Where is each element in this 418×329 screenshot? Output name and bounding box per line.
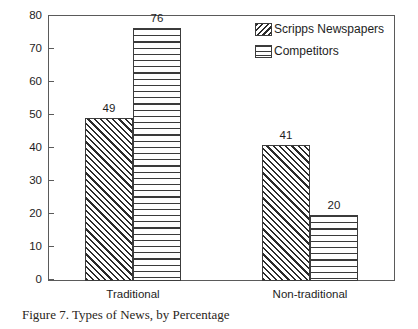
legend-item-competitors: Competitors: [255, 42, 384, 61]
legend-swatch-diagonal-hatch-icon: [255, 23, 272, 36]
legend-label-competitors: Competitors: [274, 45, 339, 58]
y-tick-label-80: 80: [6, 10, 42, 22]
bar-traditional-competitors: [133, 28, 181, 281]
legend: Scripps Newspapers Competitors: [255, 20, 384, 64]
y-tick-label-50: 50: [6, 109, 42, 121]
x-category-label-traditional: Traditional: [83, 288, 183, 300]
figure-caption: Figure 7. Types of News, by Percentage: [22, 307, 230, 322]
y-tick-mark-30: [48, 180, 54, 181]
y-tick-mark-70: [48, 48, 54, 49]
y-tick-label-40: 40: [6, 142, 42, 154]
legend-item-scripps-newspapers: Scripps Newspapers: [255, 20, 384, 39]
bar-value-traditional-scripps: 49: [85, 102, 133, 114]
figure-container: 80 70 60 50 40 30 20 10 0 49 76 41 20 Tr…: [0, 0, 418, 329]
legend-label-scripps-newspapers: Scripps Newspapers: [274, 23, 384, 36]
y-tick-mark-40: [48, 147, 54, 148]
legend-swatch-horizontal-lines-icon: [255, 45, 272, 58]
y-tick-label-30: 30: [6, 175, 42, 187]
bar-nontraditional-scripps: [262, 145, 310, 281]
y-tick-label-70: 70: [6, 43, 42, 55]
y-tick-label-60: 60: [6, 76, 42, 88]
y-tick-label-20: 20: [6, 208, 42, 220]
x-category-label-nontraditional: Non-traditional: [260, 288, 360, 300]
bar-value-nontraditional-competitors: 20: [310, 199, 358, 211]
y-tick-mark-60: [48, 81, 54, 82]
bar-nontraditional-competitors: [310, 215, 358, 281]
bar-traditional-scripps: [85, 118, 133, 281]
y-tick-label-10: 10: [6, 241, 42, 253]
y-tick-mark-0: [48, 279, 54, 280]
y-tick-mark-50: [48, 114, 54, 115]
y-tick-label-0: 0: [6, 274, 42, 286]
bar-value-nontraditional-scripps: 41: [262, 129, 310, 141]
y-tick-mark-10: [48, 246, 54, 247]
bar-value-traditional-competitors: 76: [133, 12, 181, 24]
y-tick-mark-80: [48, 15, 54, 16]
y-tick-mark-20: [48, 213, 54, 214]
